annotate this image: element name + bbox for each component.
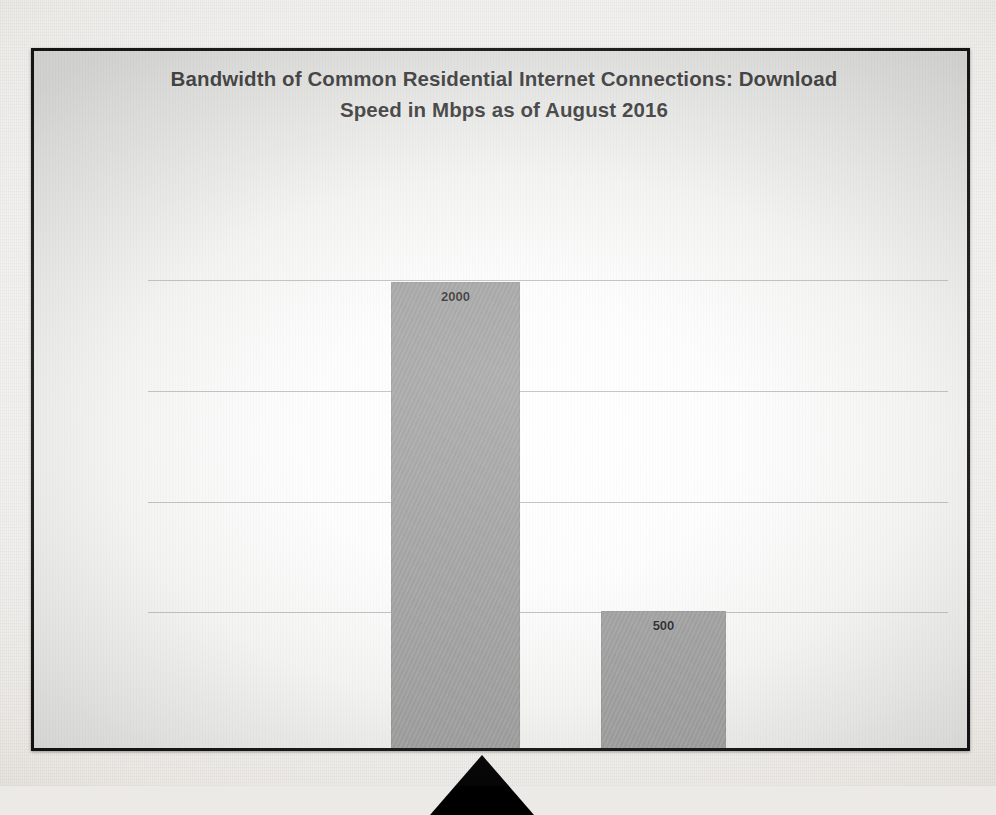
chart-title-line-2: Speed in Mbps as of August 2016 [104,94,904,125]
gridline-3 [148,502,948,503]
bar-value-fiber: 500 [601,618,726,633]
chart-title-line-1: Bandwidth of Common Residential Internet… [104,63,904,94]
gridline-4 [148,612,948,613]
gridline-1 [148,280,948,281]
gridline-2 [148,391,948,392]
chart-title: Bandwidth of Common Residential Internet… [104,63,904,125]
pointer-triangle-icon [430,755,534,815]
chart-frame: Bandwidth of Common Residential Internet… [31,48,970,751]
bar-value-cable: 2000 [391,289,520,304]
plot-area: 20 2000 500 15 DSL CABLE FIBER SATELLITE [148,177,948,751]
bar-cable[interactable] [391,282,520,751]
